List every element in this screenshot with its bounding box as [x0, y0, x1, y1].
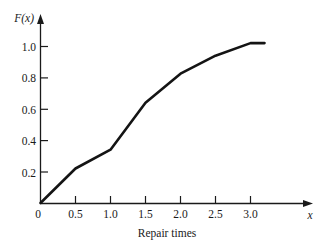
x-tick-labels: 0 0.5 1.0 1.5 2.0 2.5 3.0 — [35, 208, 258, 220]
y-tick-labels: 1.0 0.8 0.6 0.4 0.2 — [22, 41, 37, 179]
x-axis-arrowhead — [303, 200, 313, 207]
x-tick-label-1.5: 1.5 — [138, 208, 153, 220]
x-axis-label: x — [306, 209, 313, 221]
x-tick-label-2.5: 2.5 — [208, 208, 223, 220]
x-tick-label-3.0: 3.0 — [243, 208, 258, 220]
x-tick-label-0.5: 0.5 — [68, 208, 83, 220]
x-tick-label-2.0: 2.0 — [173, 208, 188, 220]
y-tick-label-0.2: 0.2 — [22, 167, 37, 179]
y-tick-label-1.0: 1.0 — [22, 41, 37, 53]
chart-plot-area: 1.0 0.8 0.6 0.4 0.2 0 0.5 1.0 1.5 2.0 2.… — [0, 0, 327, 249]
x-tick-label-0: 0 — [35, 208, 41, 220]
y-axis-label: F(x) — [13, 12, 34, 25]
chart-caption: Repair times — [138, 227, 197, 240]
x-tick-label-1.0: 1.0 — [103, 208, 118, 220]
y-tick-label-0.4: 0.4 — [22, 135, 37, 147]
chart-figure: 1.0 0.8 0.6 0.4 0.2 0 0.5 1.0 1.5 2.0 2.… — [0, 0, 327, 249]
y-tick-marks — [41, 47, 49, 173]
x-tick-marks — [76, 196, 251, 204]
cdf-curve — [41, 43, 265, 203]
y-axis-arrowhead — [37, 14, 44, 24]
y-tick-label-0.8: 0.8 — [22, 72, 37, 84]
y-tick-label-0.6: 0.6 — [22, 104, 37, 116]
